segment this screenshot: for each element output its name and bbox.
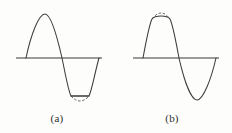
panel-caption-a: (a) bbox=[27, 112, 87, 124]
waveform-curve-a bbox=[26, 14, 99, 96]
unclipped-trough-ghost-a bbox=[71, 96, 89, 101]
panel-caption-b: (b) bbox=[142, 112, 202, 124]
clipping-waveform-figure: (a) (b) bbox=[0, 0, 232, 133]
